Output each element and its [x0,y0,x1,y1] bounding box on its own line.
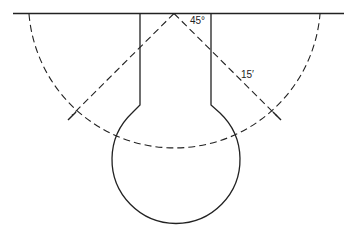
diagram-canvas: 45° 15′ [0,0,346,231]
tick-left [68,112,76,120]
angle-label: 45° [190,15,205,26]
keyhole-outline [112,14,240,224]
radius-label: 15′ [241,69,254,80]
dashed-radius-arc [29,14,320,148]
tick-right [273,112,281,120]
dashed-line-right [174,14,277,117]
dashed-line-left [72,14,174,116]
